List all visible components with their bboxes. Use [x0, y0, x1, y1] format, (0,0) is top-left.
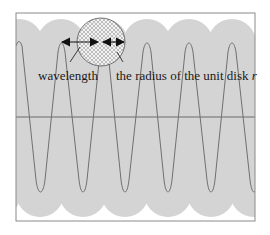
- radius-label: the radius of the unit disk r: [116, 68, 258, 83]
- plot-area: [0, 19, 270, 217]
- radius-symbol: r: [252, 68, 258, 83]
- sine-wave-unit-disk-diagram: wavelength the radius of the unit disk r: [0, 0, 270, 235]
- disk-swept-band: [0, 19, 270, 217]
- wavelength-label: wavelength: [38, 68, 98, 83]
- radius-label-text: the radius of the unit disk: [116, 68, 252, 83]
